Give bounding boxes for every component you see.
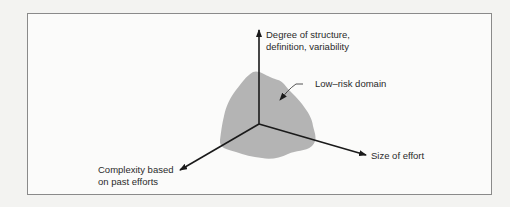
complexity-axis-label: Complexity based on past efforts — [98, 164, 174, 188]
region-label: Low–risk domain — [315, 78, 386, 90]
low-risk-domain-region — [220, 71, 316, 158]
vertical-axis-label-line1: Degree of structure, — [266, 29, 350, 41]
complexity-axis-label-line1: Complexity based — [98, 164, 174, 176]
diagram-graphic — [0, 0, 510, 207]
diagram-canvas: Degree of structure, definition, variabi… — [0, 0, 510, 207]
vertical-axis-label-line2: definition, variability — [266, 41, 350, 53]
vertical-axis-label: Degree of structure, definition, variabi… — [266, 29, 350, 53]
size-axis-label: Size of effort — [371, 150, 424, 162]
complexity-axis-label-line2: on past efforts — [98, 176, 174, 188]
